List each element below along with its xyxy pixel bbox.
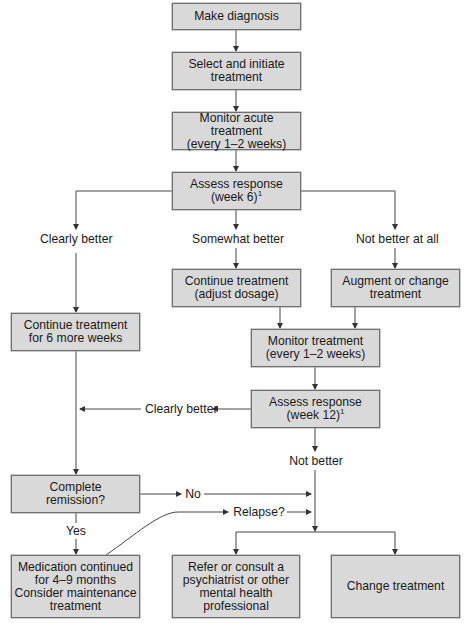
node-medication-continued: Medication continued for 4–9 months Cons… bbox=[11, 555, 140, 618]
node-complete-remission: Complete remission? bbox=[11, 475, 140, 513]
label-yes: Yes bbox=[64, 525, 88, 538]
footnote-marker: 1 bbox=[258, 189, 262, 198]
node-text: Monitor treatment (every 1–2 weeks) bbox=[266, 335, 366, 361]
node-assess-response-week12: Assess response (week 12)1 bbox=[251, 390, 380, 428]
node-change-treatment: Change treatment bbox=[331, 555, 460, 618]
node-monitor-acute-treatment: Monitor acute treatment (every 1–2 weeks… bbox=[172, 112, 301, 150]
node-text: Assess response (week 6) bbox=[190, 177, 283, 204]
node-monitor-treatment: Monitor treatment (every 1–2 weeks) bbox=[251, 329, 380, 367]
node-augment-or-change-treatment: Augment or change treatment bbox=[331, 269, 460, 307]
node-refer-or-consult: Refer or consult a psychiatrist or other… bbox=[172, 555, 300, 618]
label-clearly-better-week12: Clearly better bbox=[145, 403, 213, 416]
node-text: Refer or consult a psychiatrist or other… bbox=[183, 561, 289, 613]
node-text: Continue treatment (adjust dosage) bbox=[185, 275, 289, 301]
label-no: No bbox=[183, 488, 203, 501]
node-make-diagnosis: Make diagnosis bbox=[172, 3, 301, 30]
node-text: Select and initiate treatment bbox=[188, 58, 284, 84]
node-text: Augment or change treatment bbox=[342, 275, 448, 301]
label-somewhat-better: Somewhat better bbox=[192, 233, 280, 246]
node-text: Make diagnosis bbox=[194, 10, 279, 23]
node-select-initiate-treatment: Select and initiate treatment bbox=[172, 52, 301, 90]
node-text: Complete remission? bbox=[46, 481, 105, 507]
label-not-better-at-all: Not better at all bbox=[356, 233, 434, 246]
node-assess-response-week6: Assess response (week 6)1 bbox=[172, 172, 301, 210]
label-not-better: Not better bbox=[288, 455, 344, 468]
node-text: Monitor acute treatment (every 1–2 weeks… bbox=[173, 112, 300, 151]
node-continue-treatment-adjust-dosage: Continue treatment (adjust dosage) bbox=[172, 269, 301, 307]
footnote-marker: 1 bbox=[340, 407, 344, 416]
node-text: Continue treatment for 6 more weeks bbox=[24, 319, 128, 345]
label-clearly-better: Clearly better bbox=[40, 233, 112, 246]
node-continue-treatment-6-weeks: Continue treatment for 6 more weeks bbox=[11, 313, 140, 351]
node-text: Medication continued for 4–9 months Cons… bbox=[15, 561, 137, 613]
label-relapse: Relapse? bbox=[233, 506, 285, 519]
node-text: Assess response (week 12) bbox=[269, 395, 362, 422]
node-text: Change treatment bbox=[347, 580, 445, 593]
